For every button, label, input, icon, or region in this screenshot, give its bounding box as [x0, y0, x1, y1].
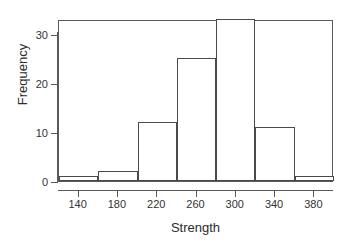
y-axis-tick — [51, 133, 57, 134]
x-axis-tick-label: 260 — [176, 198, 216, 210]
x-axis-tick — [235, 191, 236, 197]
histogram-bar — [255, 127, 294, 181]
x-axis-tick — [274, 191, 275, 197]
x-axis-tick — [156, 191, 157, 197]
x-axis-tick-label: 140 — [58, 198, 98, 210]
y-axis-tick-label: 0 — [8, 176, 48, 188]
x-axis-tick-label: 340 — [254, 198, 294, 210]
x-axis-tick — [78, 191, 79, 197]
histogram-bar — [216, 19, 255, 181]
histogram-bars — [59, 21, 332, 181]
x-axis-tick — [196, 191, 197, 197]
x-axis-tick — [313, 191, 314, 197]
histogram-bar — [177, 58, 216, 181]
x-axis-tick-label: 300 — [215, 198, 255, 210]
x-axis-tick-label: 220 — [136, 198, 176, 210]
y-axis-tick — [51, 182, 57, 183]
y-axis-tick — [51, 84, 57, 85]
histogram-figure: 0102030140180220260300340380 Strength Fr… — [0, 0, 347, 249]
y-axis-tick — [51, 35, 57, 36]
x-axis-tick-label: 180 — [97, 198, 137, 210]
x-axis-title: Strength — [58, 220, 333, 235]
histogram-bar — [98, 171, 137, 181]
x-axis-tick-label: 380 — [293, 198, 333, 210]
y-axis-title: Frequency — [15, 20, 30, 130]
y-axis-line — [57, 32, 58, 183]
histogram-bar — [138, 122, 177, 181]
x-axis-tick — [117, 191, 118, 197]
histogram-bar — [59, 176, 98, 181]
histogram-bar — [295, 176, 334, 181]
plot-area — [58, 20, 333, 182]
